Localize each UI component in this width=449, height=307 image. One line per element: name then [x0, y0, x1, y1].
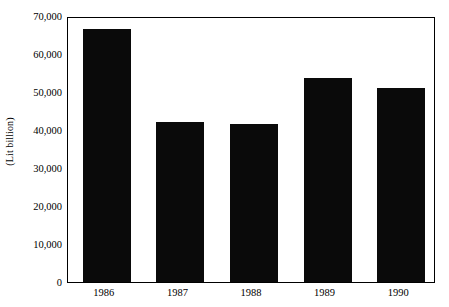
x-tick-label: 1986: [67, 286, 141, 299]
bar: [304, 78, 352, 282]
bar: [230, 124, 278, 282]
y-tick-label: 70,000: [14, 12, 62, 23]
y-tick-label: 50,000: [14, 88, 62, 99]
y-axis-tick-labels: 010,00020,00030,00040,00050,00060,00070,…: [14, 0, 62, 307]
bar-series: [68, 18, 434, 282]
y-tick-label: 20,000: [14, 202, 62, 213]
chart-figure: (Lit billion) 010,00020,00030,00040,0005…: [0, 0, 449, 307]
y-tick-label: 10,000: [14, 240, 62, 251]
x-tick-label: 1990: [361, 286, 435, 299]
bar: [377, 88, 425, 282]
y-tick-label: 60,000: [14, 50, 62, 61]
plot-area: [67, 17, 435, 283]
x-tick-label: 1987: [141, 286, 215, 299]
bar: [156, 122, 204, 282]
bar: [83, 29, 131, 282]
y-axis-title-text: (Lit billion): [4, 117, 15, 165]
y-tick-label: 30,000: [14, 164, 62, 175]
x-axis-tick-labels: 19861987198819891990: [67, 286, 435, 306]
y-tick-label: 0: [14, 278, 62, 289]
x-tick-label: 1988: [214, 286, 288, 299]
y-tick-label: 40,000: [14, 126, 62, 137]
x-tick-label: 1989: [288, 286, 362, 299]
